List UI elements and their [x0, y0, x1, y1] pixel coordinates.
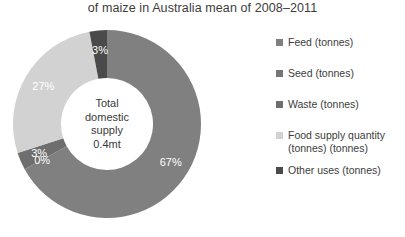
slice-value-label: 27%: [32, 80, 54, 92]
donut-slice: [13, 32, 98, 153]
slice-value-label: 67%: [160, 156, 182, 168]
chart-figure: of maize in Australia mean of 2008–2011 …: [0, 0, 405, 237]
legend-swatch-icon: [276, 132, 283, 139]
legend-item[interactable]: Feed (tonnes): [276, 36, 405, 49]
legend-swatch-icon: [276, 70, 283, 77]
donut-slices: [13, 30, 201, 218]
legend-item-label: Feed (tonnes): [288, 36, 353, 49]
legend-swatch-icon: [276, 39, 283, 46]
donut-chart: 67%0%3%27%3%: [12, 29, 202, 219]
legend-item[interactable]: Seed (tonnes): [276, 67, 405, 80]
donut-svg: 67%0%3%27%3%: [12, 29, 202, 219]
chart-title: of maize in Australia mean of 2008–2011: [0, 0, 405, 16]
legend-item-label-line-2: (tonnes) (tonnes): [288, 142, 385, 155]
legend-item[interactable]: Other uses (tonnes): [276, 164, 405, 177]
legend-swatch-icon: [276, 167, 283, 174]
chart-legend: Feed (tonnes)Seed (tonnes)Waste (tonnes)…: [276, 36, 405, 195]
slice-value-label: 3%: [31, 147, 47, 159]
legend-item-label: Other uses (tonnes): [288, 164, 381, 177]
legend-swatch-icon: [276, 101, 283, 108]
legend-item-label: Waste (tonnes): [288, 98, 359, 111]
slice-value-label: 3%: [92, 44, 108, 56]
legend-item[interactable]: Food supply quantity(tonnes) (tonnes): [276, 129, 405, 155]
legend-item-label: Food supply quantity(tonnes) (tonnes): [288, 129, 385, 155]
legend-item[interactable]: Waste (tonnes): [276, 98, 405, 111]
legend-item-label: Seed (tonnes): [288, 67, 354, 80]
